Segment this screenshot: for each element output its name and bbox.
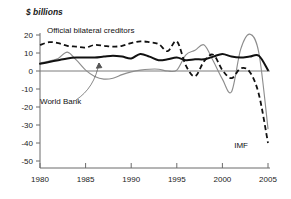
chart-container: 20100-10-20-30-40-5019801985199019952000… [0, 0, 291, 199]
label-imf: IMF [234, 141, 248, 150]
y-axis-tick-label: -40 [21, 139, 33, 148]
x-axis-tick-label: 2005 [259, 175, 277, 184]
line-chart: 20100-10-20-30-40-5019801985199019952000… [0, 0, 291, 199]
y-axis-tick-label: -30 [21, 121, 33, 130]
x-axis-tick-label: 1985 [77, 175, 95, 184]
x-axis-tick-label: 1990 [122, 175, 140, 184]
y-axis-title: $ billions [25, 7, 63, 17]
y-axis-tick-label: -10 [21, 85, 33, 94]
y-axis-tick-label: 10 [24, 49, 33, 58]
y-axis-tick-label: 0 [29, 67, 34, 76]
series-line-imf [40, 54, 268, 70]
y-axis-tick-label: -20 [21, 103, 33, 112]
y-axis-tick-label: 20 [24, 31, 33, 40]
label-official-bilateral-creditors: Official bilateral creditors [47, 26, 134, 35]
x-axis-tick-label: 1980 [31, 175, 49, 184]
x-axis-tick-label: 2000 [214, 175, 232, 184]
label-world-bank: World Bank [40, 97, 82, 106]
world-bank-leader-arrowhead [96, 63, 101, 68]
world-bank-leader-line [76, 63, 99, 100]
y-axis-tick-label: -50 [21, 157, 33, 166]
series-line-world-bank [40, 34, 268, 129]
x-axis-tick-label: 1995 [168, 175, 186, 184]
